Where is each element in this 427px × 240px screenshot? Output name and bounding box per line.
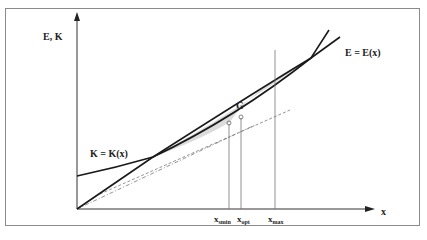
marker-label-xmax-sub: max	[273, 219, 284, 225]
y-axis-label: E, K	[43, 31, 62, 42]
marker-label-xopt-sub: opt	[242, 219, 250, 225]
y-axis-arrow-icon	[74, 12, 80, 21]
x-axis-label: x	[381, 206, 386, 217]
curve-k-label: K = K(x)	[90, 148, 128, 159]
curve-e-label: E = E(x)	[345, 47, 381, 58]
marker-label-xsmin-sub: smin	[219, 219, 231, 225]
tangent-line-dashed	[100, 110, 290, 194]
marker-label-xsmin: xsmin	[214, 214, 231, 225]
marker-label-xopt: xopt	[237, 214, 250, 225]
region-g-label: G	[236, 100, 244, 111]
x-axis-arrow-icon	[365, 206, 375, 212]
curve-e	[77, 30, 329, 209]
diagram-canvas	[0, 0, 427, 240]
marker-label-xmax: xmax	[268, 214, 284, 225]
